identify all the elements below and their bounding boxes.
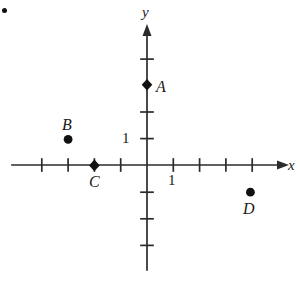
x-unit-label: 1 xyxy=(168,173,176,188)
coordinate-plane-figure: x y 1 1 A B C D xyxy=(0,0,300,284)
point-label-a: A xyxy=(156,79,166,95)
y-axis-label: y xyxy=(142,5,149,20)
point-marker-b xyxy=(64,135,73,144)
plot-canvas xyxy=(0,0,300,284)
y-axis-arrowhead xyxy=(143,24,152,36)
point-label-d: D xyxy=(243,201,255,217)
x-axis-label: x xyxy=(288,158,295,173)
y-unit-label: 1 xyxy=(122,131,130,146)
point-marker-c xyxy=(89,160,100,172)
point-label-c: C xyxy=(89,174,100,190)
point-marker-a xyxy=(142,79,153,91)
point-label-b: B xyxy=(62,117,72,133)
point-marker-d xyxy=(246,188,255,197)
